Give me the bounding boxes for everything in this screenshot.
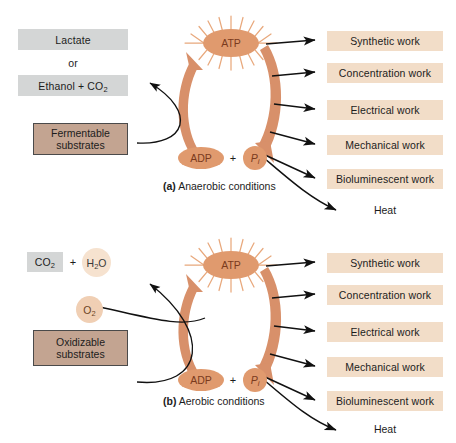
output-label-synthetic-work: Synthetic work [350,257,420,269]
atp-label: ATP [221,259,241,271]
panel-a-caption-marker: (a) [163,180,176,192]
input-box-fermentable-substrates: Fermentable substrates [33,123,128,155]
arrow-to-concentration-work [272,294,315,298]
pi-label: Pi [251,152,260,164]
arrow-to-electrical-work [274,104,315,109]
panel-a-caption-text: Anaerobic conditions [178,180,275,192]
substrate-line-1: Fermentable [51,127,110,140]
heat-label: Heat [374,204,396,216]
product-box-ethanol-co2: Ethanol + CO2 [18,75,128,96]
product-co2-subscript: 2 [103,85,107,94]
output-box-synthetic-work: Synthetic work [327,253,443,273]
arrow-to-concentration-work [272,72,315,76]
substrate-to-product-arrow [137,83,180,143]
output-label-concentration-work: Concentration work [339,67,431,79]
pi-letter: P [251,374,258,386]
work-arrows [265,40,315,178]
substrate-to-product-arrow [137,284,193,382]
output-label-electrical-work: Electrical work [350,104,419,116]
product-h2o-subscript: 2 [94,262,98,271]
product-ethanol-co2-text: Ethanol + CO [38,80,103,92]
product-conjunction-or: or [18,55,128,71]
input-o2-subscript: 2 [92,309,96,318]
output-box-bioluminescent-work: Bioluminescent work [327,169,443,189]
output-label-heat: Heat [352,202,418,218]
heat-label: Heat [374,423,396,435]
substrate-line-2: substrates [56,139,104,152]
product-lactate-label: Lactate [55,34,91,46]
product-ethanol-co2-label: Ethanol + CO2 [38,80,107,92]
output-label-bioluminescent-work: Bioluminescent work [336,395,434,407]
plus-label: + [230,374,236,386]
panel-aerobic: CO2 + H2O O2 Oxidizable substrates ATP A… [0,222,456,443]
oxygen-input-arrow [100,307,205,322]
adp-to-atp-orange-arrow [178,52,203,155]
output-box-mechanical-work: Mechanical work [327,357,443,377]
output-label-electrical-work: Electrical work [350,326,419,338]
molecule-adp: ADP [178,147,224,169]
output-label-mechanical-work: Mechanical work [345,361,425,373]
product-plus-label: + [70,256,76,268]
product-h2o-text: H [87,257,95,269]
arrow-to-heat [264,380,336,430]
input-o2-label: O2 [83,304,95,316]
output-label-concentration-work: Concentration work [339,289,431,301]
product-co2-label: CO2 [35,256,55,268]
molecule-atp: ATP [203,251,259,279]
adp-label: ADP [190,152,212,164]
product-h2o-tail: O [98,257,106,269]
molecule-pi: Pi [243,368,267,392]
molecule-atp: ATP [203,29,259,57]
pi-letter: P [251,152,258,164]
arrow-to-synthetic-work [266,40,315,44]
product-or-label: or [68,57,77,69]
product-h2o-label: H2O [87,257,107,269]
work-arrows [265,262,315,400]
arrow-to-electrical-work [274,326,315,331]
molecule-pi: Pi [243,146,267,170]
arrow-to-mechanical-work [270,132,315,144]
output-label-synthetic-work: Synthetic work [350,35,420,47]
arrow-to-bioluminescent-work [265,377,315,400]
output-box-electrical-work: Electrical work [327,100,443,120]
atp-cycle-figure: Lactate or Ethanol + CO2 Fermentable sub… [0,0,456,443]
panel-anaerobic: Lactate or Ethanol + CO2 Fermentable sub… [0,0,456,221]
plus-label: + [230,152,236,164]
pi-subscript: i [258,379,260,388]
output-label-heat: Heat [352,421,418,437]
output-label-mechanical-work: Mechanical work [345,139,425,151]
product-box-co2: CO2 [27,252,63,272]
arrow-to-bioluminescent-work [265,155,315,178]
output-label-bioluminescent-work: Bioluminescent work [336,173,434,185]
output-box-synthetic-work: Synthetic work [327,31,443,51]
output-box-concentration-work: Concentration work [327,285,443,305]
output-box-electrical-work: Electrical work [327,322,443,342]
panel-b-caption-marker: (b) [163,395,176,407]
atp-to-adp-orange-arrow [255,267,281,385]
substrate-line-1: Oxidizable [56,336,105,349]
cycle-plus-sign: + [226,149,240,167]
atp-label: ATP [221,37,241,49]
panel-b-caption-text: Aerobic conditions [179,395,265,407]
input-o2-text: O [83,304,91,316]
pi-label: Pi [251,374,260,386]
product-box-lactate: Lactate [18,29,128,50]
input-circle-o2: O2 [76,296,103,323]
arrow-to-mechanical-work [270,354,315,366]
panel-b-caption: (b) Aerobic conditions [163,395,265,407]
substrate-line-2: substrates [56,348,104,361]
atp-to-adp-orange-arrow [255,45,281,163]
product-co2-subscript: 2 [51,261,55,270]
molecule-adp: ADP [178,369,224,391]
product-circle-h2o: H2O [82,248,111,277]
product-co2-text: CO [35,256,51,268]
pi-subscript: i [258,157,260,166]
panel-a-caption: (a) Anaerobic conditions [163,180,276,192]
output-box-mechanical-work: Mechanical work [327,135,443,155]
output-box-bioluminescent-work: Bioluminescent work [327,391,443,411]
adp-label: ADP [190,374,212,386]
output-box-concentration-work: Concentration work [327,63,443,83]
adp-to-atp-orange-arrow [178,274,203,377]
arrow-to-synthetic-work [266,262,315,266]
cycle-plus-sign: + [226,371,240,389]
